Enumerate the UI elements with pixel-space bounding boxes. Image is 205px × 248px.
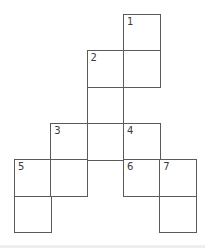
grid-cell[interactable] [159, 196, 197, 234]
grid-cell-5[interactable]: 5 [14, 159, 52, 197]
grid-cell[interactable] [14, 196, 52, 234]
grid-cell-4[interactable]: 4 [123, 123, 161, 161]
grid-cell[interactable] [50, 159, 88, 197]
grid-cell-2[interactable]: 2 [87, 50, 125, 88]
grid-cell-3[interactable]: 3 [50, 123, 88, 161]
clue-number: 1 [127, 16, 133, 27]
grid-cell-1[interactable]: 1 [123, 14, 161, 52]
crossword-grid: 1234567 [0, 0, 205, 245]
clue-number: 2 [91, 52, 97, 63]
clue-number: 5 [18, 161, 24, 172]
clue-number: 6 [127, 161, 133, 172]
grid-cell[interactable] [87, 123, 125, 161]
clue-number: 7 [163, 161, 169, 172]
clue-number: 4 [127, 125, 133, 136]
grid-cell[interactable] [87, 87, 125, 125]
grid-cell-6[interactable]: 6 [123, 159, 161, 197]
grid-cell[interactable] [123, 50, 161, 88]
clue-number: 3 [54, 125, 60, 136]
grid-cell-7[interactable]: 7 [159, 159, 197, 197]
